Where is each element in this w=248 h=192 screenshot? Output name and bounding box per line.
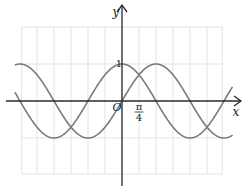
chart: x y O 1 π 4 bbox=[0, 0, 248, 192]
x-axis-label: x bbox=[233, 105, 240, 119]
x-tick-label-pi-over-4-denominator: 4 bbox=[136, 112, 142, 123]
y-axis-label: y bbox=[112, 5, 120, 19]
x-tick-label-pi-over-4-numerator: π bbox=[136, 101, 143, 112]
origin-label: O bbox=[112, 101, 121, 114]
y-tick-label-1: 1 bbox=[116, 58, 122, 69]
